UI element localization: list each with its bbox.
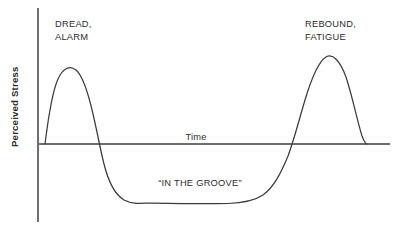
second-peak-label-line2: FATIGUE [305, 32, 346, 42]
first-peak-label-line2: ALARM [55, 32, 88, 42]
chart-canvas: Perceived Stress Time DREAD, ALARM REBOU… [0, 0, 401, 231]
stress-curve-chart: Perceived Stress Time DREAD, ALARM REBOU… [0, 0, 401, 231]
trough-label: “IN THE GROOVE” [158, 178, 242, 188]
x-axis-title: Time [185, 132, 206, 142]
first-peak-label-line1: DREAD, [55, 19, 92, 29]
y-axis-title: Perceived Stress [9, 66, 20, 147]
second-peak-label-line1: REBOUND, [305, 19, 356, 29]
